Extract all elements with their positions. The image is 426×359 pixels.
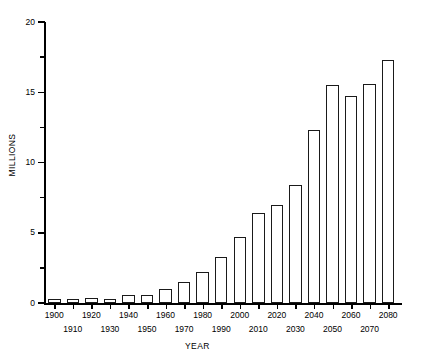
y-tick-label: 15: [5, 88, 35, 97]
bar: [252, 213, 265, 303]
x-tick-label: 2080: [371, 311, 405, 320]
y-tick-major: [38, 232, 45, 234]
chart-figure: 05101520 1900191019201930194019501960197…: [0, 0, 426, 359]
x-tick: [73, 304, 75, 309]
x-tick-label: 1950: [130, 325, 164, 334]
x-tick: [91, 304, 93, 309]
x-tick: [388, 304, 390, 309]
x-axis-title: YEAR: [185, 341, 210, 351]
x-axis-line: [44, 303, 402, 305]
bar: [159, 289, 172, 303]
x-tick: [54, 304, 56, 309]
x-tick-label: 2020: [260, 311, 294, 320]
x-tick: [203, 304, 205, 309]
x-tick: [221, 304, 223, 309]
x-tick-label: 2040: [297, 311, 331, 320]
bar: [345, 96, 358, 303]
y-tick-minor: [40, 197, 45, 199]
x-tick: [258, 304, 260, 309]
bar: [234, 237, 247, 303]
x-tick-label: 1930: [93, 325, 127, 334]
x-tick: [333, 304, 335, 309]
bar: [178, 282, 191, 303]
y-axis-title: MILLIONS: [7, 120, 17, 190]
bar: [196, 272, 209, 303]
bar: [289, 185, 302, 303]
y-tick-major: [38, 21, 45, 23]
x-tick: [128, 304, 130, 309]
y-tick-major: [38, 302, 45, 304]
bar: [363, 84, 376, 303]
bar: [85, 298, 98, 303]
y-tick-minor: [40, 267, 45, 269]
bar: [215, 257, 228, 303]
bar: [271, 205, 284, 303]
bar: [48, 299, 61, 303]
x-tick: [277, 304, 279, 309]
y-tick-label: 5: [5, 228, 35, 237]
x-tick: [184, 304, 186, 309]
x-tick-label: 1990: [204, 325, 238, 334]
x-tick-label: 2030: [278, 325, 312, 334]
y-tick-label: 20: [5, 18, 35, 27]
bar: [104, 299, 117, 303]
bar: [67, 299, 80, 303]
y-tick-minor: [40, 127, 45, 129]
x-tick: [147, 304, 149, 309]
x-tick-label: 1970: [167, 325, 201, 334]
x-tick: [370, 304, 372, 309]
x-tick-label: 1960: [149, 311, 183, 320]
x-tick: [240, 304, 242, 309]
bar: [382, 60, 395, 303]
bar: [308, 130, 321, 303]
x-tick: [295, 304, 297, 309]
x-tick-label: 1940: [111, 311, 145, 320]
bar: [122, 295, 135, 303]
x-tick-label: 2010: [241, 325, 275, 334]
x-tick-label: 2000: [223, 311, 257, 320]
y-tick-major: [38, 162, 45, 164]
x-tick-label: 1920: [74, 311, 108, 320]
x-tick-label: 1910: [56, 325, 90, 334]
x-tick-label: 2050: [316, 325, 350, 334]
bar: [141, 295, 154, 303]
bar: [326, 85, 339, 303]
x-tick: [110, 304, 112, 309]
x-tick: [166, 304, 168, 309]
y-tick-major: [38, 92, 45, 94]
x-tick-label: 2060: [334, 311, 368, 320]
x-tick-label: 1980: [186, 311, 220, 320]
plot-area: 05101520 1900191019201930194019501960197…: [0, 0, 426, 359]
y-tick-label: 0: [5, 299, 35, 308]
x-tick: [351, 304, 353, 309]
x-tick: [314, 304, 316, 309]
x-tick-label: 2070: [353, 325, 387, 334]
y-tick-minor: [40, 56, 45, 58]
x-tick-label: 1900: [37, 311, 71, 320]
